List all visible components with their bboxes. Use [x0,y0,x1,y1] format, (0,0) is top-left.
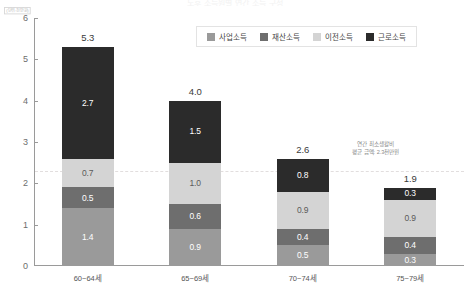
bar-total-value: 4.0 [169,87,221,97]
bar-segment[interactable]: 0.9 [277,192,329,229]
bar-segment[interactable]: 0.6 [169,204,221,229]
bar-segment[interactable]: 0.9 [169,229,221,266]
legend-item[interactable]: 이전소득 [313,31,353,42]
legend-swatch-icon [207,33,215,41]
legend-swatch-icon [366,33,374,41]
bar-segment[interactable]: 0.3 [384,254,436,266]
bar-segment[interactable]: 0.5 [62,187,114,208]
bar-segment[interactable]: 1.5 [169,101,221,163]
bar-segment[interactable]: 0.7 [62,159,114,188]
chart-title: 노후 소득원별 연간 소득 구성 [0,0,470,6]
y-tick-label: 5 [6,55,28,64]
x-tick-label: 60~64세 [48,272,128,283]
bar-group[interactable]: 0.50.40.90.82.6 [277,18,329,266]
bar-stack: 0.50.40.90.8 [277,159,329,266]
y-tick-label: 0 [6,262,28,271]
bar-segment[interactable]: 1.0 [169,163,221,204]
legend-item[interactable]: 재산소득 [260,31,300,42]
bar-stack: 0.90.61.01.5 [169,101,221,266]
x-tick-label: 70~74세 [263,272,343,283]
y-tick-label: 1 [6,220,28,229]
bar-segment-value: 0.4 [297,233,309,242]
legend-label: 재산소득 [272,31,300,42]
bar-segment-value: 0.3 [404,256,416,265]
legend-label: 이전소득 [325,31,353,42]
y-tick-label: 3 [6,138,28,147]
legend-item[interactable]: 사업소득 [207,31,247,42]
legend-item[interactable]: 근로소득 [366,31,406,42]
y-tick-label: 2 [6,179,28,188]
bar-segment-value: 0.8 [297,171,309,180]
legend-label: 근로소득 [378,31,406,42]
bar-segment-value: 0.5 [297,251,309,260]
bar-segment-value: 1.5 [189,127,201,136]
bar-segment-value: 0.3 [404,189,416,198]
bar-segment-value: 0.9 [189,243,201,252]
bar-segment[interactable]: 1.4 [62,208,114,266]
bar-segment-value: 0.4 [404,241,416,250]
bar-segment-value: 2.7 [82,99,94,108]
bar-group[interactable]: 0.30.40.90.31.9 [384,18,436,266]
bar-segment[interactable]: 0.3 [384,188,436,200]
bar-segment-value: 0.5 [82,194,94,203]
chart-legend: 사업소득재산소득이전소득근로소득 [196,26,417,47]
bar-total-value: 2.6 [277,145,329,155]
legend-label: 사업소득 [219,31,247,42]
bar-segment[interactable]: 0.4 [277,229,329,246]
bar-segment[interactable]: 0.5 [277,245,329,266]
bar-segment[interactable]: 2.7 [62,47,114,159]
bar-group[interactable]: 0.90.61.01.54.0 [169,18,221,266]
bar-total-value: 1.9 [384,174,436,184]
x-tick-label: 75~79세 [370,272,450,283]
y-tick-label: 6 [6,14,28,23]
x-tick-label: 65~69세 [155,272,235,283]
bar-segment-value: 0.9 [297,206,309,215]
bar-segment[interactable]: 0.9 [384,200,436,237]
stacked-bar-chart: 노후 소득원별 연간 소득 구성 (단위:천만원) 0123456 연간 최소생… [0,0,470,293]
legend-swatch-icon [260,33,268,41]
legend-swatch-icon [313,33,321,41]
bar-segment-value: 0.9 [404,214,416,223]
bar-total-value: 5.3 [62,33,114,43]
bar-segment-value: 0.7 [82,169,94,178]
bar-segment-value: 1.4 [82,233,94,242]
bar-segment-value: 0.6 [189,212,201,221]
bar-stack: 1.40.50.72.7 [62,47,114,266]
bar-group[interactable]: 1.40.50.72.75.3 [62,18,114,266]
bars-layer: 1.40.50.72.75.30.90.61.01.54.00.50.40.90… [34,18,464,266]
bar-segment-value: 1.0 [189,179,201,188]
y-tick-label: 4 [6,96,28,105]
bar-segment[interactable]: 0.8 [277,159,329,192]
bar-stack: 0.30.40.90.3 [384,188,436,267]
bar-segment[interactable]: 0.4 [384,237,436,254]
